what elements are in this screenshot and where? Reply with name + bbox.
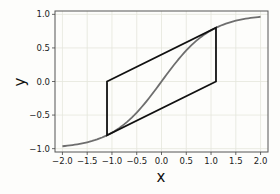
x-axis-label: x [157, 168, 166, 186]
y-tick-label: −1.0 [29, 144, 50, 154]
y-axis-ticks: −1.0−0.50.00.51.0 [29, 9, 55, 153]
chart: −2.0−1.5−1.0−0.50.00.51.01.52.0 −1.0−0.5… [0, 0, 280, 194]
x-tick-label: 1.5 [229, 156, 243, 166]
x-tick-label: 0.5 [180, 156, 194, 166]
y-tick-label: 0.5 [36, 43, 50, 53]
x-tick-label: −0.5 [126, 156, 147, 166]
x-tick-label: −1.0 [102, 156, 123, 166]
x-tick-label: 0.0 [155, 156, 169, 166]
x-tick-label: 1.0 [204, 156, 218, 166]
y-tick-label: −0.5 [29, 110, 50, 120]
x-tick-label: −1.5 [77, 156, 98, 166]
y-axis-label: y [11, 77, 29, 86]
x-tick-label: −2.0 [52, 156, 73, 166]
x-axis-ticks: −2.0−1.5−1.0−0.50.00.51.01.52.0 [52, 152, 267, 166]
y-tick-label: 1.0 [36, 9, 50, 19]
x-tick-label: 2.0 [254, 156, 268, 166]
y-tick-label: 0.0 [36, 77, 50, 87]
